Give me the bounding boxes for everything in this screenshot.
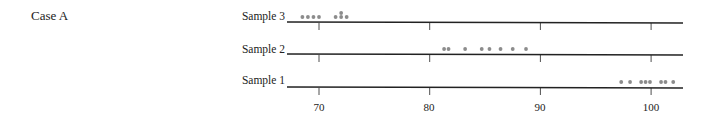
data-dot	[312, 15, 316, 19]
data-dot	[648, 80, 652, 84]
data-dot	[300, 15, 304, 19]
tick-label-80: 80	[424, 101, 435, 113]
data-dot	[639, 80, 643, 84]
axis-line	[287, 87, 683, 88]
data-dot	[339, 15, 343, 19]
tick-label-100: 100	[643, 101, 660, 113]
data-dot	[306, 15, 310, 19]
data-dot	[345, 15, 349, 19]
data-dot	[671, 80, 675, 84]
data-dot	[511, 47, 515, 51]
axis-line	[287, 22, 683, 23]
data-dot	[339, 11, 343, 15]
data-dot	[447, 47, 451, 51]
data-dot	[463, 47, 467, 51]
dot-plot	[0, 0, 715, 120]
data-dot	[659, 80, 663, 84]
data-dot	[628, 80, 632, 84]
axis-line	[287, 54, 683, 55]
data-dot	[488, 47, 492, 51]
data-dot	[524, 47, 528, 51]
data-dot	[644, 80, 648, 84]
data-dot	[619, 80, 623, 84]
data-dot	[480, 47, 484, 51]
data-dot	[499, 47, 503, 51]
data-dot	[334, 15, 338, 19]
data-dot	[442, 47, 446, 51]
tick-label-90: 90	[535, 101, 546, 113]
data-dot	[664, 80, 668, 84]
tick-label-70: 70	[314, 101, 325, 113]
data-dot	[317, 15, 321, 19]
